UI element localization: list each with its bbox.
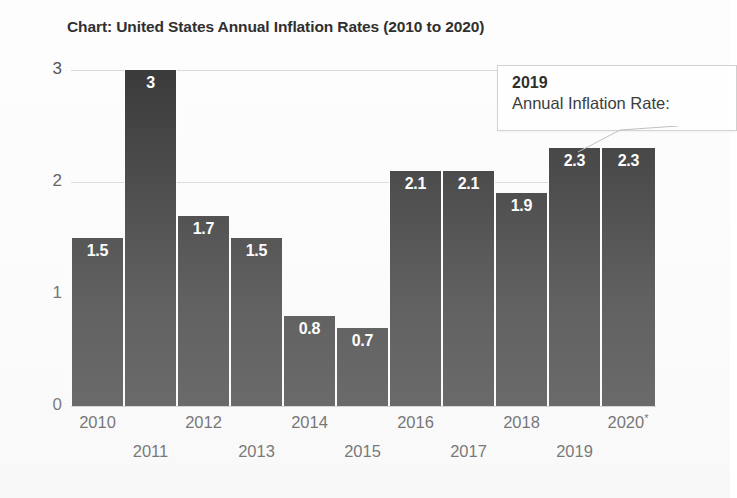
x-tick-2015: 2015 (336, 442, 389, 461)
bar-2012[interactable]: 1.7 (177, 216, 230, 406)
bar-2020[interactable]: 2.3 (601, 148, 656, 406)
bar-group-2013[interactable]: 1.5 (230, 70, 283, 406)
bar-value-2018: 1.9 (496, 197, 547, 215)
bar-2019[interactable]: 2.3 (548, 148, 601, 406)
bar-value-2019: 2.3 (549, 152, 600, 170)
x-tick-2019: 2019 (548, 442, 601, 461)
tooltip-metric-label: Annual Inflation Rate: (512, 93, 736, 114)
bar-2017[interactable]: 2.1 (442, 171, 495, 406)
x-tick-2017: 2017 (442, 442, 495, 461)
bar-2013[interactable]: 1.5 (230, 238, 283, 406)
bar-group-2010[interactable]: 1.5 (71, 70, 124, 406)
bar-value-2015: 0.7 (337, 332, 388, 350)
chart-title: Chart: United States Annual Inflation Ra… (67, 18, 484, 36)
bar-value-2011: 3 (125, 74, 176, 92)
x-tick-2020-asterisk: * (644, 412, 648, 424)
bar-value-2014: 0.8 (284, 320, 335, 338)
x-tick-2014: 2014 (283, 413, 336, 432)
bar-2016[interactable]: 2.1 (389, 171, 442, 406)
y-tick-2: 2 (22, 171, 62, 191)
bar-2011[interactable]: 3 (124, 70, 177, 406)
x-tick-2012: 2012 (177, 413, 230, 432)
bar-group-2011[interactable]: 3 (124, 70, 177, 406)
x-tick-2020-year: 2020 (608, 413, 645, 431)
bar-value-2012: 1.7 (178, 220, 229, 238)
x-tick-2020: 2020* (599, 413, 657, 432)
bar-value-2020: 2.3 (602, 152, 655, 170)
x-tick-2016: 2016 (389, 413, 442, 432)
bar-value-2016: 2.1 (390, 175, 441, 193)
bar-2018[interactable]: 1.9 (495, 193, 548, 406)
bar-value-2013: 1.5 (231, 242, 282, 260)
bar-group-2016[interactable]: 2.1 (389, 70, 442, 406)
y-tick-1: 1 (22, 283, 62, 303)
bar-value-2010: 1.5 (72, 242, 123, 260)
bar-group-2017[interactable]: 2.1 (442, 70, 495, 406)
tooltip-callout: 2019 Annual Inflation Rate: (497, 65, 737, 131)
tooltip-year: 2019 (512, 73, 736, 93)
x-tick-2013: 2013 (230, 442, 283, 461)
bar-group-2012[interactable]: 1.7 (177, 70, 230, 406)
x-tick-2011: 2011 (124, 442, 177, 461)
bar-group-2014[interactable]: 0.8 (283, 70, 336, 406)
bar-2014[interactable]: 0.8 (283, 316, 336, 406)
bar-group-2015[interactable]: 0.7 (336, 70, 389, 406)
y-tick-3: 3 (22, 59, 62, 79)
x-tick-2010: 2010 (71, 413, 124, 432)
bar-2010[interactable]: 1.5 (71, 238, 124, 406)
y-tick-0: 0 (22, 395, 62, 415)
x-tick-2018: 2018 (495, 413, 548, 432)
x-axis-labels: 2010 2011 2012 2013 2014 2015 2016 2017 … (71, 406, 656, 476)
bar-value-2017: 2.1 (443, 175, 494, 193)
bar-2015[interactable]: 0.7 (336, 328, 389, 406)
